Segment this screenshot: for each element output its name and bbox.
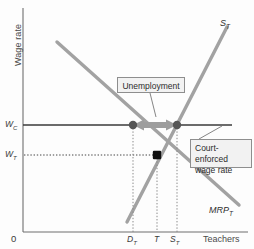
mrp-curve-label-main: MRP bbox=[209, 205, 229, 215]
supply-point-marker bbox=[173, 121, 181, 129]
x-axis-label: Teachers bbox=[203, 235, 240, 244]
y-tick-wc-sub: C bbox=[13, 125, 17, 131]
y-tick-wt-sub: T bbox=[13, 155, 17, 161]
mrp-curve-label: MRPT bbox=[209, 206, 233, 217]
x-tick-st: ST bbox=[170, 235, 179, 246]
y-axis-label: Wage rate bbox=[14, 24, 23, 66]
y-tick-wc: WC bbox=[5, 120, 17, 131]
x-tick-st-sub: T bbox=[176, 240, 180, 246]
x-tick-t-main: T bbox=[154, 234, 159, 244]
x-tick-dt: DT bbox=[127, 235, 137, 246]
supply-curve-label: ST bbox=[220, 19, 230, 30]
court-enforced-callout-line2: wage rate bbox=[195, 165, 247, 176]
demand-point-marker bbox=[129, 121, 137, 129]
court-enforced-wage-callout: Court-enforced wage rate bbox=[190, 139, 252, 168]
equilibrium-point-marker bbox=[153, 151, 161, 159]
supply-curve-label-sub: T bbox=[226, 23, 230, 30]
economics-diagram-figure: Wage rate Teachers 0 WC WT DT T ST ST MR… bbox=[0, 0, 254, 249]
origin-label: 0 bbox=[11, 234, 16, 244]
x-tick-dt-sub: T bbox=[133, 240, 137, 246]
y-tick-wt-main: W bbox=[5, 149, 13, 159]
unemployment-callout: Unemployment bbox=[117, 77, 185, 93]
unemployment-callout-text: Unemployment bbox=[122, 81, 179, 91]
x-tick-t: T bbox=[154, 235, 159, 244]
y-tick-wc-main: W bbox=[5, 119, 13, 129]
court-enforced-leader-line bbox=[199, 126, 222, 139]
y-tick-wt: WT bbox=[5, 150, 17, 161]
mrp-curve-label-sub: T bbox=[229, 210, 233, 217]
unemployment-leader-line bbox=[150, 93, 156, 117]
court-enforced-callout-line1: Court-enforced bbox=[195, 143, 247, 165]
